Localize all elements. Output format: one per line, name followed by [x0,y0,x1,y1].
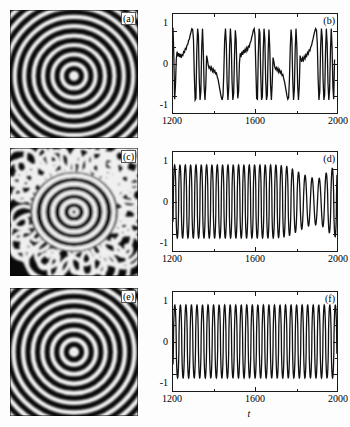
timeseries-b [173,14,337,113]
axis-tick [337,247,338,251]
axis-tick [173,234,177,235]
axis-tick [335,218,338,219]
axis-tick [297,292,298,295]
axis-tick [173,358,176,359]
figure-row-bottom: (e) 1 0 -1 1200 1600 2000 t (f) [0,280,350,418]
axis-tick [335,325,338,326]
axis-tick [214,111,215,114]
xtick-d-1200: 1200 [152,254,192,264]
axis-tick [335,358,338,359]
ytick-b-0: 0 [144,59,168,69]
axis-tick [255,109,256,113]
ytick-d-neg1: -1 [144,238,168,248]
panel-f-plot: 1 0 -1 1200 1600 2000 t (f) [150,280,348,418]
axis-tick [214,389,215,392]
axis-tick [255,292,256,296]
axis-tick [255,14,256,18]
panel-label-a: (a) [121,12,136,25]
axis-tick [337,387,338,391]
axis-tick [173,342,177,343]
axis-tick [333,64,337,65]
panel-b-plot: 1 0 -1 1200 1600 2000 (b) [150,2,348,140]
panel-label-b: (b) [322,15,336,26]
target-pattern-a [10,10,138,138]
axis-tick [172,152,173,156]
axis-tick [297,389,298,392]
ytick-d-0: 0 [144,197,168,207]
axis-tick [297,249,298,252]
xtick-d-2000: 2000 [318,254,350,264]
plot-frame-f [172,291,338,392]
axis-tick [173,202,177,203]
axis-tick [333,234,337,235]
axis-tick [337,292,338,296]
ytick-f-1: 1 [144,296,168,306]
axis-tick [337,14,338,18]
ytick-d-1: 1 [144,156,168,166]
axis-tick [214,152,215,155]
ytick-b-1: 1 [144,18,168,28]
panel-label-d: (d) [322,153,336,164]
plot-frame-b [172,13,338,114]
axis-tick [335,185,338,186]
axis-tick [255,387,256,391]
figure-panel-grid: (a) 1 0 -1 1200 1600 2000 (b) [0,0,350,427]
axis-tick [173,64,177,65]
axis-tick [335,47,338,48]
axis-tick [173,31,177,32]
xtick-b-1200: 1200 [152,116,192,126]
timeseries-d [173,152,337,251]
plot-frame-d [172,151,338,252]
axis-tick [333,169,337,170]
axis-tick [255,247,256,251]
xtick-f-1600: 1600 [235,394,275,404]
axis-tick [297,111,298,114]
ytick-f-neg1: -1 [144,378,168,388]
panel-d-plot: 1 0 -1 1200 1600 2000 (d) [150,140,348,278]
ytick-b-neg1: -1 [144,100,168,110]
panel-label-c: (c) [121,150,136,163]
figure-row-top: (a) 1 0 -1 1200 1600 2000 (b) [0,2,350,140]
axis-tick [297,152,298,155]
axis-tick [214,292,215,295]
axis-tick [337,152,338,156]
xtick-f-1200: 1200 [152,394,192,404]
figure-row-middle: (c) 1 0 -1 1200 1600 2000 (d) [0,140,350,278]
panel-label-f: (f) [324,293,336,304]
timeseries-f [173,292,337,391]
axis-tick [214,14,215,17]
axis-tick [333,96,337,97]
axis-tick [173,169,177,170]
axis-tick [172,14,173,18]
panel-a-image: (a) [10,10,138,138]
turbulent-target-pattern-c [10,148,138,276]
axis-tick [173,96,177,97]
axis-tick [337,109,338,113]
axis-tick [333,31,337,32]
xtick-f-2000: 2000 [318,394,350,404]
axis-tick [173,374,177,375]
target-pattern-e [10,288,138,416]
xtick-b-1600: 1600 [235,116,275,126]
axis-tick [255,152,256,156]
panel-e-image: (e) [10,288,138,416]
axis-tick [333,202,337,203]
axis-tick [214,249,215,252]
xtick-d-1600: 1600 [235,254,275,264]
axis-tick [333,309,337,310]
xtick-b-2000: 2000 [318,116,350,126]
axis-tick [172,387,173,391]
axis-tick [173,185,176,186]
axis-tick [173,309,177,310]
panel-c-image: (c) [10,148,138,276]
x-axis-label: t [150,408,348,419]
panel-label-e: (e) [121,290,136,303]
axis-tick [173,325,176,326]
ytick-f-0: 0 [144,337,168,347]
axis-tick [173,80,176,81]
axis-tick [173,47,176,48]
axis-tick [172,109,173,113]
axis-tick [335,80,338,81]
axis-tick [333,374,337,375]
axis-tick [333,342,337,343]
